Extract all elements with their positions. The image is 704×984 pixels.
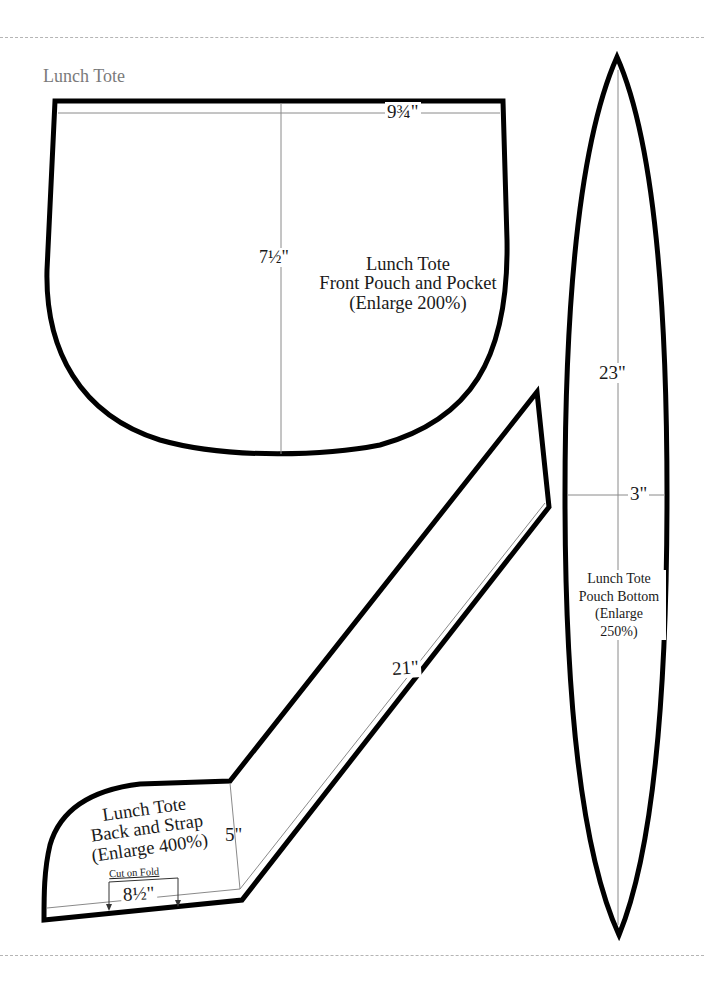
front-pouch-name-line1: Lunch Tote xyxy=(288,255,528,274)
front-pouch-label: Lunch Tote Front Pouch and Pocket (Enlar… xyxy=(288,255,528,313)
pouch-bottom-name-line1: Lunch Tote xyxy=(572,570,666,588)
back-strap-side-dimension: 5" xyxy=(223,825,244,845)
front-pouch-enlarge: (Enlarge 200%) xyxy=(288,294,528,313)
pattern-sheet: Lunch Tote 9¾" 7½" Lunch Tote xyxy=(0,0,704,984)
pouch-bottom-label: Lunch Tote Pouch Bottom (Enlarge 250%) xyxy=(572,570,666,640)
pouch-bottom-length-dimension: 23" xyxy=(597,363,628,383)
front-pouch-height-dimension: 7½" xyxy=(257,248,291,267)
pouch-bottom-outline xyxy=(565,57,667,935)
back-strap-strap-dimension: 21" xyxy=(389,657,421,679)
back-strap-strap-line xyxy=(240,503,545,889)
pouch-bottom-width-dimension: 3" xyxy=(628,484,649,504)
pouch-bottom-piece xyxy=(565,57,667,935)
back-strap-base-dimension: 8½" xyxy=(121,883,158,905)
front-pouch-name-line2: Front Pouch and Pocket xyxy=(288,274,528,293)
front-pouch-width-dimension: 9¾" xyxy=(385,102,421,122)
pouch-bottom-name-line2: Pouch Bottom xyxy=(572,588,666,606)
pouch-bottom-enlarge-line1: (Enlarge xyxy=(572,605,666,623)
fold-arrow-left-icon xyxy=(106,904,112,911)
pouch-bottom-enlarge-line2: 250%) xyxy=(572,623,666,641)
